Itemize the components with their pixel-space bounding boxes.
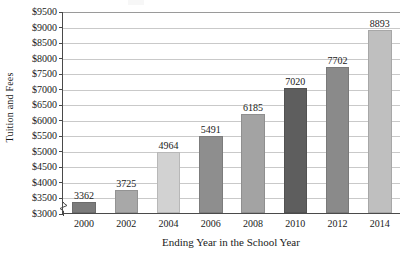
bar: 49642004: [157, 152, 181, 213]
x-tick-label: 2000: [74, 218, 94, 229]
bar-value-label: 6185: [243, 102, 263, 113]
bar: 61852008: [241, 114, 265, 213]
y-axis-title: Tuition and Fees: [0, 0, 18, 214]
bar-value-label: 3725: [116, 178, 136, 189]
x-tick-label: 2008: [243, 218, 263, 229]
y-tick-label: $7000: [32, 83, 57, 96]
x-tick-label: 2004: [159, 218, 179, 229]
y-tick-label: $5500: [32, 129, 57, 142]
y-tick-mark: [59, 43, 63, 44]
x-tick-label: 2006: [201, 218, 221, 229]
y-axis-title-text: Tuition and Fees: [4, 72, 15, 142]
y-tick-label: $8500: [32, 36, 57, 49]
y-tick-label: $3000: [32, 207, 57, 220]
bar: 70202010: [284, 88, 308, 213]
x-axis-title: Ending Year in the School Year: [62, 236, 400, 248]
y-tick-mark: [59, 105, 63, 106]
gridline: [63, 136, 400, 137]
y-tick-label: $6000: [32, 114, 57, 127]
plot-area: $3000$3500$4000$4500$5000$5500$6000$6500…: [62, 12, 400, 214]
bar-value-label: 5491: [201, 124, 221, 135]
gridline: [63, 183, 400, 184]
gridline: [63, 74, 400, 75]
gridline: [63, 59, 400, 60]
gridline: [63, 105, 400, 106]
clipped-title-artifact: [128, 0, 144, 5]
gridline: [63, 167, 400, 168]
y-tick-mark: [59, 120, 63, 121]
bar: 37252002: [115, 190, 139, 213]
x-tick-label: 2014: [370, 218, 390, 229]
bar-chart-figure: Tuition and Fees $3000$3500$4000$4500$50…: [0, 0, 415, 256]
y-tick-mark: [59, 27, 63, 28]
y-tick-label: $4000: [32, 176, 57, 189]
y-tick-label: $4500: [32, 160, 57, 173]
bar: 88932014: [368, 30, 392, 213]
gridline: [63, 28, 400, 29]
y-tick-label: $8000: [32, 52, 57, 65]
bar-value-label: 7020: [285, 76, 305, 87]
bar: 54912006: [199, 136, 223, 213]
gridline: [63, 43, 400, 44]
bar: 33622000: [72, 202, 96, 213]
y-tick-label: $3500: [32, 191, 57, 204]
y-tick-mark: [59, 12, 63, 13]
y-tick-mark: [59, 198, 63, 199]
y-tick-mark: [59, 182, 63, 183]
bar-value-label: 7702: [328, 55, 348, 66]
gridline: [63, 12, 400, 13]
x-tick-label: 2002: [116, 218, 136, 229]
bar-value-label: 8893: [370, 18, 390, 29]
x-tick-label: 2010: [285, 218, 305, 229]
x-tick-label: 2012: [328, 218, 348, 229]
y-tick-label: $9000: [32, 21, 57, 34]
gridline: [63, 121, 400, 122]
bar-value-label: 3362: [74, 190, 94, 201]
gridline: [63, 90, 400, 91]
y-tick-mark: [59, 89, 63, 90]
y-tick-mark: [59, 74, 63, 75]
bar-value-label: 4964: [159, 140, 179, 151]
y-tick-mark: [59, 58, 63, 59]
y-tick-label: $9500: [32, 5, 57, 18]
gridline: [63, 152, 400, 153]
y-tick-mark: [59, 151, 63, 152]
bar: 77022012: [326, 67, 350, 213]
y-tick-label: $6500: [32, 98, 57, 111]
y-tick-mark: [59, 214, 63, 215]
y-tick-label: $7500: [32, 67, 57, 80]
y-tick-label: $5000: [32, 145, 57, 158]
y-tick-mark: [59, 136, 63, 137]
y-tick-mark: [59, 167, 63, 168]
